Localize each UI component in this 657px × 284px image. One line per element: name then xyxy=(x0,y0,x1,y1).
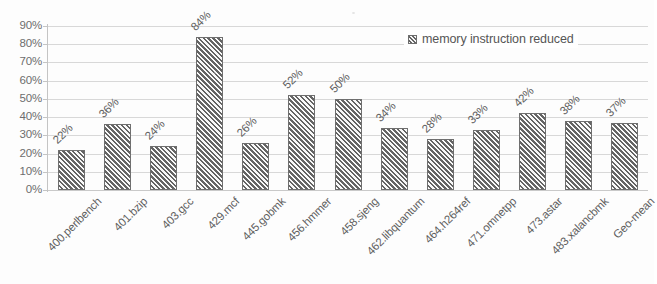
x-axis-tick-label: 464.h264ref xyxy=(379,195,472,284)
x-axis-tick-label: 400.perlbench xyxy=(10,195,103,284)
bar xyxy=(565,121,592,190)
x-axis-tick-label: 401.bzip xyxy=(56,195,149,284)
x-axis-tick-label: Geo-mean xyxy=(564,195,657,284)
x-axis-tick-label: 473.astar xyxy=(471,195,564,284)
y-axis-tick-label: 10% xyxy=(0,165,42,177)
bar xyxy=(335,99,362,190)
y-axis-tick-label: 70% xyxy=(0,55,42,67)
bar xyxy=(242,143,269,190)
x-axis-tick-label: 462.libquantum xyxy=(333,195,426,284)
bar xyxy=(611,123,638,190)
bar xyxy=(104,124,131,190)
bar xyxy=(196,37,223,190)
y-axis-tick-label: 30% xyxy=(0,128,42,140)
gridline xyxy=(48,190,648,191)
x-axis-tick-label: 471.omnetpp xyxy=(425,195,518,284)
x-axis-tick-label: 483.xalancbmk xyxy=(517,195,610,284)
bar xyxy=(473,130,500,190)
y-axis-tick-label: 60% xyxy=(0,74,42,86)
y-axis-tick-label: 90% xyxy=(0,19,42,31)
y-axis-tick-label: 50% xyxy=(0,92,42,104)
bar xyxy=(150,146,177,190)
bar xyxy=(381,128,408,190)
y-axis-tick-label: 0% xyxy=(0,183,42,195)
bar xyxy=(427,139,454,190)
y-axis-tick xyxy=(43,190,48,191)
x-axis-tick-label: 429.mcf xyxy=(148,195,241,284)
x-axis-tick-label: 445.gobmk xyxy=(194,195,287,284)
x-axis-tick-label: 403.gcc xyxy=(102,195,195,284)
scan-speckle xyxy=(352,12,355,14)
x-axis-tick-label: 458.sjeng xyxy=(287,195,380,284)
y-axis-tick-label: 20% xyxy=(0,147,42,159)
chart-legend: memory instruction reduced xyxy=(404,30,578,48)
y-axis-tick-label: 80% xyxy=(0,37,42,49)
y-axis-tick-label: 40% xyxy=(0,110,42,122)
legend-entry-label: memory instruction reduced xyxy=(422,32,574,46)
bar xyxy=(519,113,546,190)
bar xyxy=(58,150,85,190)
legend-swatch-icon xyxy=(408,35,417,44)
bar xyxy=(288,95,315,190)
x-axis-tick-label: 456.hmmer xyxy=(240,195,333,284)
